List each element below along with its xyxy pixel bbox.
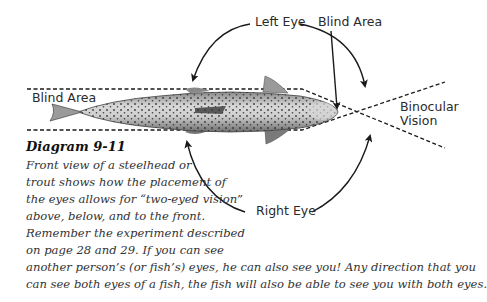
caption-line: the eyes allows for “two-eyed vision”	[26, 191, 243, 207]
caption-line: another person’s (or fish’s) eyes, he ca…	[26, 259, 476, 275]
caption-line: Remember the experiment described	[26, 225, 245, 241]
caption-line: trout shows how the placement of	[26, 174, 226, 190]
blind-area-pointer	[331, 31, 337, 108]
caption-line: above, below, and to the front.	[26, 208, 205, 224]
right-eye-label: Right Eye	[256, 204, 316, 218]
left-eye-arc-left	[193, 24, 250, 80]
caption-line: can see both eyes of a fish, the fish wi…	[26, 276, 487, 292]
left-eye-label: Left Eye	[255, 15, 305, 29]
caption-line: Front view of a steelhead or	[26, 157, 192, 173]
fish-illustration	[50, 76, 338, 144]
blind-area-left-label: Blind Area	[32, 91, 96, 105]
caption-line: on page 28 and 29. If you can see	[26, 242, 224, 258]
binocular-vision-label-line2: Vision	[400, 114, 437, 128]
caption-title: Diagram 9-11	[26, 139, 126, 154]
blind-area-top-label: Blind Area	[318, 15, 382, 29]
binocular-vision-label-line1: Binocular	[400, 100, 459, 114]
